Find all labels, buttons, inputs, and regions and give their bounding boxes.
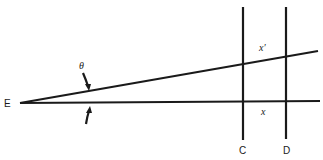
angle-arrow-lower-icon <box>86 106 92 124</box>
lower-ray <box>20 101 320 103</box>
segment-label-x-prime: x′ <box>258 42 266 53</box>
angle-arrow-upper-icon <box>83 73 91 91</box>
angle-label-theta: θ <box>79 60 84 71</box>
line-label-d: D <box>283 145 290 156</box>
segment-label-x: x <box>260 106 266 117</box>
upper-ray <box>20 51 318 103</box>
vertex-label-e: E <box>4 98 11 109</box>
line-label-c: C <box>239 145 246 156</box>
diagram-canvas: E θ x′ x C D <box>0 0 323 160</box>
